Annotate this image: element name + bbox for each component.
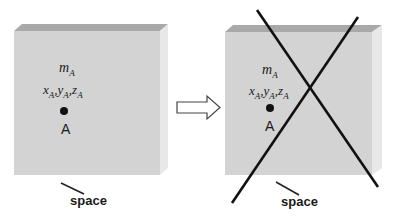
point-label-right: A <box>265 118 274 134</box>
point-a-dot-left <box>60 107 68 115</box>
point-label-left: A <box>61 121 70 137</box>
right-arrow-icon <box>177 96 220 119</box>
space-caption-left: space <box>70 193 107 208</box>
mass-label-left: mA <box>59 60 75 78</box>
coords-label-left: xA,yA,zA <box>43 82 83 100</box>
point-a-dot-right <box>266 104 274 112</box>
coords-label-right: xA,yA,zA <box>249 83 289 101</box>
mass-label-right: mA <box>262 62 278 80</box>
left-space-box <box>14 24 168 175</box>
space-caption-right: space <box>281 194 318 209</box>
diagram-canvas <box>0 0 394 221</box>
